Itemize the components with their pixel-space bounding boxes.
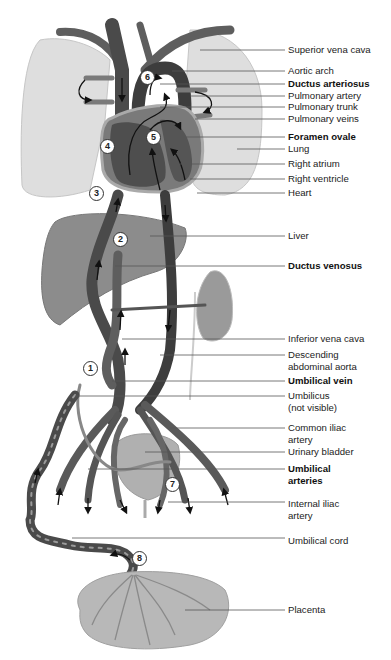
label-text: Internal iliac xyxy=(288,498,339,510)
label-text-line2: artery xyxy=(288,510,339,522)
label-text: Ductus arteriosus xyxy=(288,78,370,90)
label-text: Descending xyxy=(288,349,357,361)
label-aortic-arch: Aortic arch xyxy=(288,65,334,77)
label-text: Umbilicus xyxy=(288,390,337,402)
label-text-line2: (not visible) xyxy=(288,402,337,414)
step-marker-6: 6 xyxy=(140,70,155,85)
label-superior-vena-cava: Superior vena cava xyxy=(288,44,371,56)
step-marker-2: 2 xyxy=(113,232,128,247)
label-text: Right atrium xyxy=(288,158,340,170)
label-inferior-vena-cava: Inferior vena cava xyxy=(288,333,364,345)
label-heart: Heart xyxy=(288,187,311,199)
step-marker-7: 7 xyxy=(165,477,180,492)
label-pulmonary-trunk: Pulmonary trunk xyxy=(288,101,358,113)
step-marker-3: 3 xyxy=(89,186,104,201)
step-marker-8: 8 xyxy=(132,551,147,566)
label-text: Pulmonary veins xyxy=(288,113,359,125)
step-marker-5: 5 xyxy=(146,130,161,145)
label-text: Foramen ovale xyxy=(288,131,356,143)
label-text: Ductus venosus xyxy=(288,260,362,272)
step-marker-4: 4 xyxy=(100,139,115,154)
label-right-ventricle: Right ventricle xyxy=(288,173,349,185)
label-text: Superior vena cava xyxy=(288,44,371,56)
label-right-atrium: Right atrium xyxy=(288,158,340,170)
label-text: Umbilical xyxy=(288,463,331,475)
label-descending-abdominal-aorta: Descendingabdominal aorta xyxy=(288,349,357,373)
label-umbilical-vein: Umbilical vein xyxy=(288,375,353,387)
label-liver: Liver xyxy=(288,230,309,242)
label-urinary-bladder: Urinary bladder xyxy=(288,446,354,458)
label-internal-iliac-artery: Internal iliacartery xyxy=(288,498,339,522)
label-text: Urinary bladder xyxy=(288,446,354,458)
lung-left xyxy=(21,39,110,197)
label-text: Inferior vena cava xyxy=(288,333,364,345)
label-umbilical-arteries: Umbilicalarteries xyxy=(288,463,331,487)
label-umbilicus: Umbilicus(not visible) xyxy=(288,390,337,414)
label-ductus-arteriosus: Ductus arteriosus xyxy=(288,78,370,90)
label-text-line2: abdominal aorta xyxy=(288,361,357,373)
label-text: Lung xyxy=(288,143,309,155)
label-text: Liver xyxy=(288,230,309,242)
label-text: Umbilical cord xyxy=(288,535,348,547)
label-common-iliac-artery: Common iliacartery xyxy=(288,422,346,446)
label-text: Right ventricle xyxy=(288,173,349,185)
label-text: Heart xyxy=(288,187,311,199)
label-text: Pulmonary trunk xyxy=(288,101,358,113)
heart xyxy=(101,106,202,192)
label-foramen-ovale: Foramen ovale xyxy=(288,131,356,143)
urinary-bladder xyxy=(115,434,180,518)
label-ductus-venosus: Ductus venosus xyxy=(288,260,362,272)
label-pulmonary-veins: Pulmonary veins xyxy=(288,113,359,125)
label-text-line2: arteries xyxy=(288,475,331,487)
label-text: Umbilical vein xyxy=(288,375,353,387)
label-text-line2: artery xyxy=(288,434,346,446)
label-text: Placenta xyxy=(288,604,325,616)
label-text: Common iliac xyxy=(288,422,346,434)
label-text: Aortic arch xyxy=(288,65,334,77)
label-lung: Lung xyxy=(288,143,309,155)
label-umbilical-cord: Umbilical cord xyxy=(288,535,348,547)
label-placenta: Placenta xyxy=(288,604,325,616)
step-marker-1: 1 xyxy=(83,361,98,376)
